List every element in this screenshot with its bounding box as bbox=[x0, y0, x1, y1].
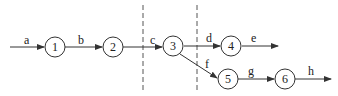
node-label-6: 6 bbox=[282, 72, 288, 86]
edge-b: b bbox=[65, 33, 102, 47]
edge-f: f bbox=[180, 54, 217, 78]
edge-d: d bbox=[184, 31, 220, 46]
flow-diagram: a b c d e f g h 1 2 3 4 bbox=[0, 0, 338, 96]
edge-label-c: c bbox=[150, 33, 155, 47]
node-label-3: 3 bbox=[170, 39, 176, 53]
edge-label-d: d bbox=[206, 31, 212, 45]
edge-h: h bbox=[295, 64, 331, 79]
node-5: 5 bbox=[218, 69, 238, 89]
edge-label-f: f bbox=[205, 57, 209, 71]
edge-e: e bbox=[242, 31, 278, 46]
node-label-1: 1 bbox=[52, 40, 58, 54]
edge-label-g: g bbox=[248, 64, 254, 78]
edge-label-e: e bbox=[251, 31, 256, 45]
node-4: 4 bbox=[221, 36, 241, 56]
edge-label-b: b bbox=[78, 33, 84, 47]
node-label-5: 5 bbox=[225, 72, 231, 86]
edge-label-a: a bbox=[24, 33, 30, 47]
node-label-4: 4 bbox=[228, 39, 234, 53]
node-3: 3 bbox=[163, 36, 183, 56]
edge-label-h: h bbox=[308, 64, 314, 78]
node-6: 6 bbox=[275, 69, 295, 89]
node-1: 1 bbox=[45, 37, 65, 57]
edge-a: a bbox=[10, 33, 44, 47]
node-label-2: 2 bbox=[110, 40, 116, 54]
edge-g: g bbox=[238, 64, 274, 79]
node-2: 2 bbox=[103, 37, 123, 57]
